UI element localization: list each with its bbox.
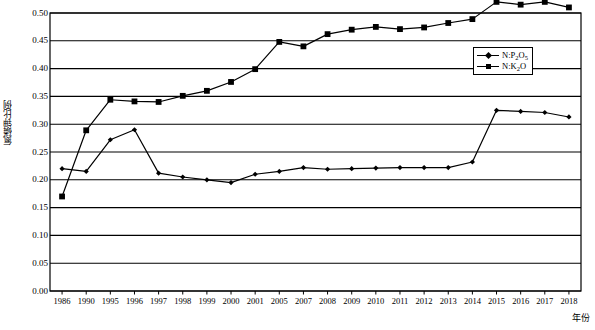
legend-item-np2o5: N:P2O5 bbox=[477, 50, 528, 61]
x-axis-title: 年份 bbox=[572, 311, 590, 324]
chart-legend: N:P2O5 N:K2O bbox=[473, 47, 533, 75]
x-axis-tick-label: 2018 bbox=[554, 297, 584, 306]
legend-item-nk2o: N:K2O bbox=[477, 61, 528, 72]
legend-line-diamond-icon bbox=[477, 51, 499, 61]
legend-label-nk2o: N:K2O bbox=[502, 61, 526, 72]
chart-container: 氮磷钾比例 0.500.450.400.350.300.250.200.150.… bbox=[0, 0, 595, 330]
legend-line-square-icon bbox=[477, 62, 499, 72]
legend-label-np2o5: N:P2O5 bbox=[502, 50, 528, 61]
